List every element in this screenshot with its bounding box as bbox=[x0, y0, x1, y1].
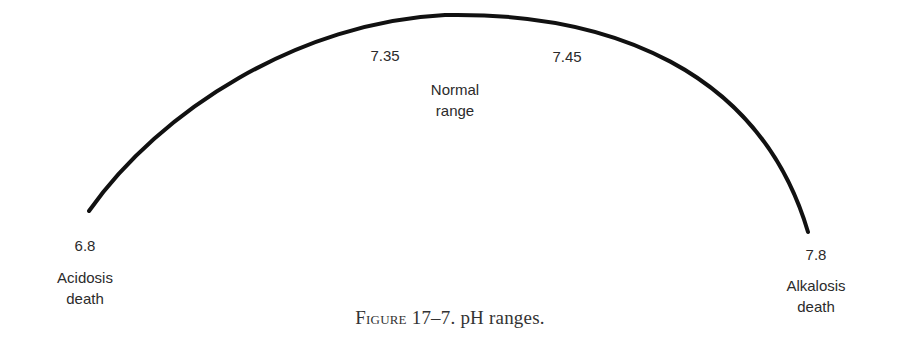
normal-low-value: 7.35 bbox=[350, 45, 420, 66]
ph-range-figure: 7.35 7.45 Normal range 6.8 Acidosis deat… bbox=[0, 0, 900, 361]
acidosis-death-label: Acidosis death bbox=[40, 267, 130, 309]
normal-high-value: 7.45 bbox=[532, 46, 602, 67]
alkalosis-value: 7.8 bbox=[786, 244, 846, 265]
acidosis-value: 6.8 bbox=[55, 235, 115, 256]
figure-caption: Figure 17–7. pH ranges. bbox=[0, 307, 900, 329]
figure-number: Figure 17–7. bbox=[355, 307, 455, 328]
figure-title: pH ranges. bbox=[455, 307, 544, 328]
normal-range-label: Normal range bbox=[400, 79, 510, 121]
